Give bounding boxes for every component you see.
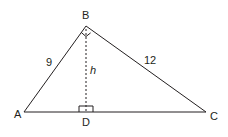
triangle-diagram: B A C D 9 12 h bbox=[0, 0, 228, 137]
vertex-label-b: B bbox=[82, 9, 89, 21]
vertex-label-a: A bbox=[14, 108, 22, 120]
side-ab bbox=[24, 26, 86, 112]
side-label-bc: 12 bbox=[144, 54, 156, 66]
side-label-ab: 9 bbox=[46, 56, 52, 68]
altitude-label-h: h bbox=[90, 64, 96, 76]
vertex-label-d: D bbox=[82, 116, 90, 128]
side-bc bbox=[86, 26, 206, 112]
vertex-label-c: C bbox=[210, 110, 218, 122]
